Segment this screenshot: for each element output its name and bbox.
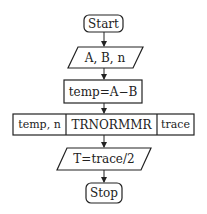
stop-label: Stop [86,187,122,199]
start-label: Start [84,18,123,30]
call-cell-subroutine: TRNORMMR [66,119,157,131]
call-cell-input: temp, n [13,119,66,130]
flowchart-canvas [0,0,207,214]
temp-label: temp=A−B [64,86,142,98]
output-label: T=trace/2 [62,153,146,165]
input-label: A, B, n [70,52,140,64]
call-cell-output: trace [157,119,194,130]
